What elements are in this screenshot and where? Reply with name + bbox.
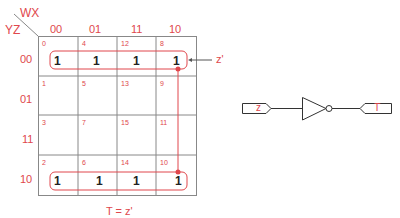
- circuit: [243, 98, 392, 121]
- output-label: T: [374, 103, 380, 113]
- col-header: 01: [89, 24, 101, 35]
- group-loop-top: [50, 51, 187, 69]
- cell-index: 13: [121, 80, 129, 87]
- cell-index: 12: [121, 40, 129, 47]
- col-header: 10: [169, 24, 181, 35]
- row-header: 01: [20, 94, 32, 105]
- row-header: 00: [20, 54, 32, 65]
- row-header: 10: [20, 174, 32, 185]
- cell-value: 1: [54, 55, 61, 67]
- group-label: z': [216, 54, 224, 65]
- not-gate-icon: [303, 98, 327, 121]
- cell-index: 14: [121, 159, 129, 166]
- cell-value: 1: [54, 175, 61, 187]
- col-variable-label: WX: [20, 7, 39, 19]
- group-loop-bottom: [50, 172, 187, 190]
- input-label: z: [256, 103, 261, 113]
- cell-index: 15: [121, 119, 129, 126]
- cell-index: 9: [160, 80, 164, 87]
- row-variable-label: YZ: [5, 24, 20, 36]
- cell-index: 1: [42, 80, 46, 87]
- col-header: 11: [131, 24, 142, 35]
- cell-index: 7: [82, 119, 86, 126]
- cell-index: 5: [82, 80, 86, 87]
- cell-index: 3: [42, 119, 46, 126]
- col-header: 00: [50, 24, 62, 35]
- cell-index: 6: [82, 159, 86, 166]
- cell-value: 1: [93, 55, 100, 67]
- cell-value: 1: [133, 175, 140, 187]
- cell-index: 4: [82, 40, 86, 47]
- cell-index: 10: [160, 159, 168, 166]
- cell-value: 1: [173, 55, 180, 67]
- cell-value: 1: [96, 175, 103, 187]
- cell-index: 0: [42, 40, 46, 47]
- cell-index: 11: [160, 119, 167, 126]
- cell-index: 2: [42, 159, 46, 166]
- cell-value: 1: [133, 55, 140, 67]
- cell-value: 1: [175, 175, 182, 187]
- equation: T = z': [106, 206, 133, 217]
- arrow-icon: [188, 58, 192, 62]
- row-header: 11: [22, 134, 33, 145]
- cell-index: 8: [160, 40, 164, 47]
